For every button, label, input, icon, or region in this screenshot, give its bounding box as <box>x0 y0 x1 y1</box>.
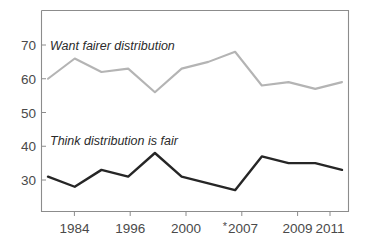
y-axis-label-40: 40 <box>21 139 36 154</box>
x-axis-label-1984: 1984 <box>59 221 90 236</box>
line-chart: 70 60 50 40 30 1984 1996 2000 * 2007 200… <box>0 0 366 250</box>
y-axis-label-30: 30 <box>21 173 36 188</box>
chart-canvas: 70 60 50 40 30 1984 1996 2000 * 2007 200… <box>0 0 366 250</box>
chart-background <box>0 0 366 250</box>
x-axis-label-2007: 2007 <box>228 221 258 236</box>
series-annotation-lower: Think distribution is fair <box>50 134 179 148</box>
series-annotation-upper: Want fairer distribution <box>50 39 175 53</box>
y-axis-label-70: 70 <box>21 38 36 53</box>
y-axis-label-50: 50 <box>21 106 36 121</box>
x-axis-label-2011: 2011 <box>315 221 344 236</box>
x-axis-label-1996: 1996 <box>115 221 145 236</box>
x-axis-label-2009: 2009 <box>283 221 313 236</box>
x-axis-label-2000: 2000 <box>171 221 201 236</box>
y-axis-label-60: 60 <box>21 72 36 87</box>
